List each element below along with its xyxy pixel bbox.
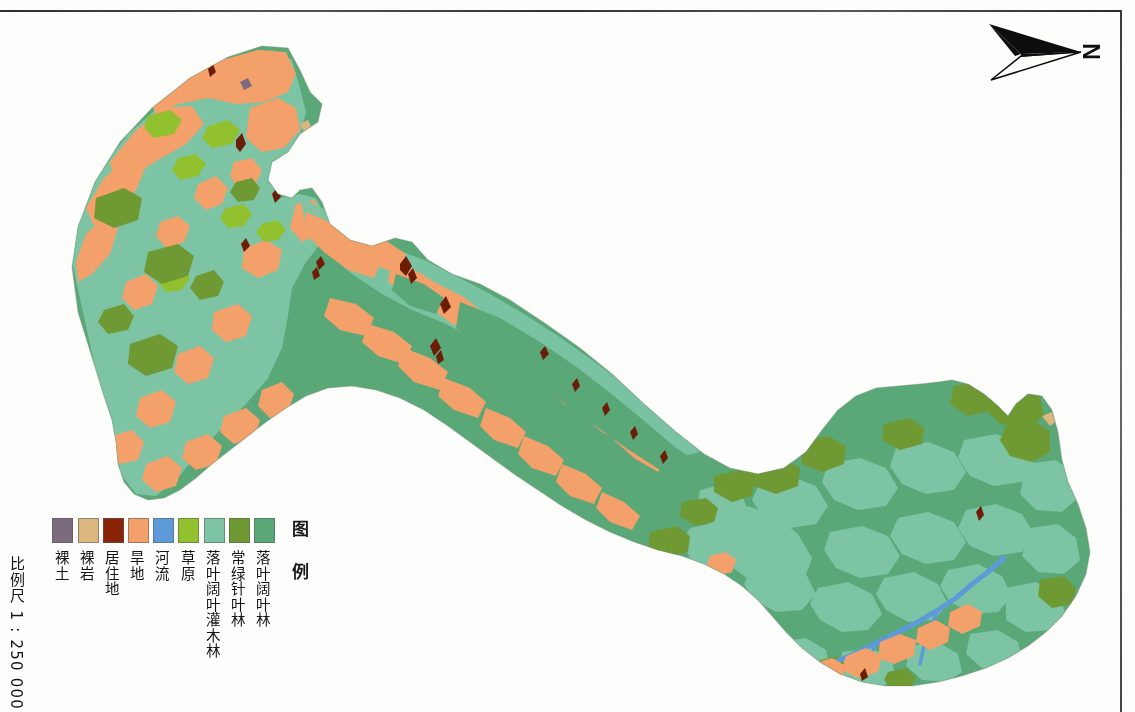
legend-item[interactable]: 裸土 [52,518,75,581]
legend-item[interactable]: 居住地 [103,518,126,597]
legend-item-label: 落叶阔叶林 [254,550,269,628]
page-frame-right-rule [1120,10,1122,712]
legend-item-label: 草原 [178,550,193,581]
north-arrow-label: N [1077,43,1104,60]
legend-swatch [254,518,275,543]
legend-item-label: 旱地 [128,550,143,581]
legend-swatch [78,518,99,543]
legend-swatch [103,518,124,543]
legend-swatch [178,518,199,543]
legend-swatch [128,518,149,543]
legend-item[interactable]: 裸岩 [78,518,101,581]
legend: 图 例 落叶阔叶林常绿针叶林落叶阔叶灌木林草原河流旱地居住地裸岩裸土 [42,518,292,708]
legend-item-label: 河流 [153,550,168,581]
legend-title: 图 例 [290,520,307,590]
legend-item[interactable]: 落叶阔叶林 [254,518,277,628]
legend-item[interactable]: 旱地 [128,518,151,581]
scale-text: 比例尺 1 : 250 000 [6,556,27,710]
legend-item[interactable]: 草原 [178,518,201,581]
legend-item-label: 裸岩 [78,550,93,581]
legend-item[interactable]: 落叶阔叶灌木林 [204,518,227,659]
legend-item-label: 落叶阔叶灌木林 [204,550,219,659]
legend-item-label: 裸土 [52,550,67,581]
legend-swatch [229,518,250,543]
legend-item-label: 居住地 [103,550,118,597]
legend-swatch [52,518,73,543]
map-page: N 图 例 落叶阔叶林常绿针叶林落叶阔叶灌木林草原河流旱地居住地裸岩裸土 比例尺… [0,0,1135,712]
legend-item[interactable]: 河流 [153,518,176,581]
legend-item-label: 常绿针叶林 [229,550,244,628]
legend-swatch [204,518,225,543]
legend-item[interactable]: 常绿针叶林 [229,518,252,628]
legend-swatch [153,518,174,543]
